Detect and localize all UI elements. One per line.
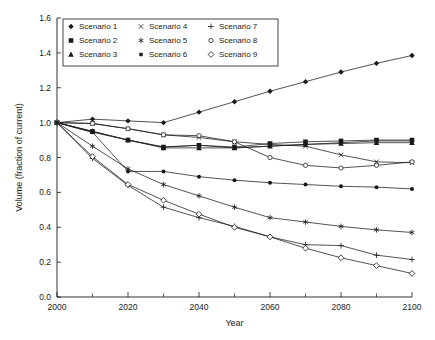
y-tick-label: 0.8 (39, 153, 51, 163)
x-tick-label: 2020 (119, 302, 138, 312)
marker-filled-square-small (197, 144, 200, 147)
marker-filled-circle (162, 169, 166, 173)
marker-filled-square-small (162, 145, 165, 148)
marker-open-circle (268, 155, 272, 159)
marker-open-diamond (161, 197, 167, 203)
legend-item-label: Scenario 8 (219, 36, 258, 45)
marker-asterisk (232, 204, 237, 210)
x-tick-label: 2060 (261, 302, 280, 312)
marker-filled-circle (375, 185, 379, 189)
marker-open-diamond (338, 255, 344, 261)
legend-item-label: Scenario 3 (79, 50, 118, 59)
legend-item-label: Scenario 5 (149, 36, 188, 45)
marker-open-circle (126, 127, 130, 131)
marker-filled-diamond (125, 118, 130, 123)
y-axis-title: Volume (fraction of current) (14, 103, 24, 212)
x-tick-label: 2080 (332, 302, 351, 312)
marker-open-circle (232, 140, 236, 144)
marker-filled-circle (339, 184, 343, 188)
marker-asterisk (197, 193, 202, 199)
marker-filled-diamond (161, 120, 166, 125)
marker-open-diamond (267, 234, 273, 240)
marker-filled-diamond (267, 89, 272, 94)
marker-filled-circle (197, 175, 201, 179)
marker-filled-diamond (232, 99, 237, 104)
series-scenario-6-lower-branch (55, 121, 414, 191)
x-tick-label: 2100 (403, 302, 422, 312)
marker-filled-diamond (303, 79, 308, 84)
marker-open-circle (209, 38, 213, 42)
y-tick-label: 1.6 (39, 13, 51, 23)
legend-item-label: Scenario 7 (219, 22, 258, 31)
marker-filled-diamond (374, 61, 379, 66)
marker-filled-circle (410, 187, 414, 191)
marker-filled-square-small (339, 141, 342, 144)
legend-item-label: Scenario 1 (79, 22, 118, 31)
x-tick-label: 2000 (48, 302, 67, 312)
marker-filled-square-small (268, 144, 271, 147)
series-path (57, 123, 412, 233)
y-tick-label: 1.4 (39, 48, 51, 58)
marker-open-diamond (374, 263, 380, 269)
marker-filled-square-small (375, 139, 378, 142)
legend-item-label: Scenario 9 (219, 50, 258, 59)
marker-open-diamond (232, 224, 238, 230)
marker-open-diamond (303, 245, 309, 251)
marker-filled-circle (304, 183, 308, 187)
marker-filled-circle (268, 181, 272, 185)
marker-open-circle (303, 163, 307, 167)
marker-filled-square (69, 38, 74, 43)
marker-filled-diamond (196, 109, 201, 114)
marker-plus (374, 252, 380, 258)
line-chart: 0.00.20.40.60.81.01.21.41.62000202020402… (0, 0, 435, 340)
marker-open-circle (197, 134, 201, 138)
y-tick-label: 0.2 (39, 257, 51, 267)
marker-open-circle (374, 163, 378, 167)
marker-filled-circle (91, 130, 95, 134)
marker-plus (161, 204, 167, 210)
legend-item-label: Scenario 4 (149, 22, 188, 31)
marker-filled-square-small (304, 143, 307, 146)
y-tick-label: 0.4 (39, 222, 51, 232)
y-tick-label: 1.2 (39, 83, 51, 93)
legend-item-label: Scenario 6 (149, 50, 188, 59)
marker-open-circle (161, 133, 165, 137)
marker-filled-square-small (126, 138, 129, 141)
marker-plus (409, 257, 415, 263)
marker-filled-square-small (139, 53, 142, 56)
chart-legend: Scenario 1Scenario 2Scenario 3Scenario 4… (63, 19, 278, 66)
marker-filled-square-small (410, 139, 413, 142)
marker-filled-square-small (233, 146, 236, 149)
marker-filled-diamond (409, 53, 414, 58)
marker-filled-circle (233, 178, 237, 182)
marker-open-circle (339, 166, 343, 170)
x-axis-title: Year (225, 318, 243, 328)
marker-open-circle (410, 160, 414, 164)
marker-filled-circle (126, 169, 130, 173)
y-tick-label: 0.0 (39, 292, 51, 302)
series-lines (54, 53, 415, 277)
series-scenario-5 (55, 120, 415, 235)
marker-open-diamond (409, 271, 415, 277)
y-tick-label: 1.0 (39, 118, 51, 128)
legend-item-label: Scenario 2 (79, 36, 118, 45)
x-tick-label: 2040 (190, 302, 209, 312)
marker-asterisk (90, 143, 95, 149)
y-tick-label: 0.6 (39, 187, 51, 197)
marker-open-circle (90, 121, 94, 125)
marker-filled-circle (55, 121, 59, 125)
marker-asterisk (161, 182, 166, 188)
marker-open-diamond (196, 211, 202, 217)
series-scenario-3 (54, 120, 415, 151)
marker-plus (338, 243, 344, 249)
chart-figure: 0.00.20.40.60.81.01.21.41.62000202020402… (0, 0, 435, 340)
marker-filled-diamond (338, 69, 343, 74)
